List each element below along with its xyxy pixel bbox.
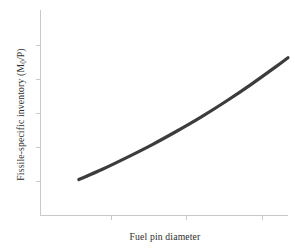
plot-area (0, 0, 295, 252)
x-axis-label: Fuel pin diameter (40, 231, 290, 243)
chart-figure: Fissile-specific inventory (M0/P) Fuel p… (0, 0, 295, 252)
y-axis-label: Fissile-specific inventory (M0/P) (15, 10, 28, 220)
y-axis-label-subscript: 0 (20, 60, 28, 64)
x-axis-label-text: Fuel pin diameter (130, 231, 201, 242)
x-axis-ticks (112, 216, 263, 221)
data-series-line (79, 58, 288, 180)
y-axis-label-tail: /P) (15, 48, 26, 60)
y-axis-label-text: Fissile-specific inventory (M (15, 64, 26, 181)
y-axis-ticks (36, 46, 41, 182)
